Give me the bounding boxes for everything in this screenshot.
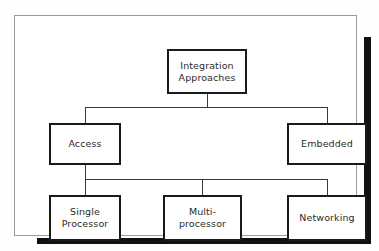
connector-access-to-bus: [85, 165, 86, 179]
connector-bus-to-multiprocessor: [202, 179, 203, 195]
connector-level1-bus: [85, 107, 328, 108]
connector-level2-bus: [85, 179, 328, 180]
node-networking: Networking: [287, 195, 367, 241]
figure-root: Integration Approaches Access Embedded S…: [0, 0, 379, 251]
figure-panel: Integration Approaches Access Embedded S…: [14, 15, 357, 236]
connector-bus-to-single-processor: [85, 179, 86, 195]
node-label-single-processor: Single Processor: [60, 206, 111, 230]
node-integration-approaches: Integration Approaches: [167, 49, 247, 94]
node-label-networking: Networking: [297, 212, 356, 224]
node-multiprocessor: Multi- processor: [163, 195, 242, 241]
connector-bus-to-embedded: [327, 107, 328, 123]
node-label-access: Access: [66, 138, 103, 150]
node-embedded: Embedded: [287, 123, 367, 165]
connector-root-to-bus: [207, 94, 208, 107]
connector-bus-to-networking: [327, 179, 328, 195]
node-label-embedded: Embedded: [299, 138, 355, 150]
node-single-processor: Single Processor: [49, 195, 121, 241]
connector-bus-to-access: [85, 107, 86, 123]
node-access: Access: [49, 123, 121, 165]
node-label-multiprocessor: Multi- processor: [177, 206, 228, 230]
node-label-integration-approaches: Integration Approaches: [177, 60, 238, 84]
